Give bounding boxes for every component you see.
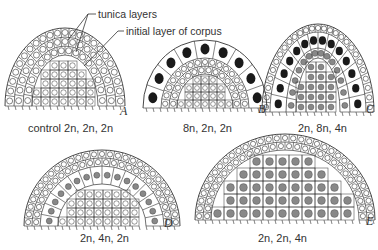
tunica-layers-label: tunica layers — [98, 8, 157, 20]
panel-e-caption: 2n, 2n, 4n — [258, 232, 307, 244]
panel-c-caption: 2n, 8n, 4n — [298, 122, 347, 134]
panel-a-letter: A — [120, 104, 127, 119]
panel-b-dome — [143, 40, 267, 112]
panel-d-dome — [24, 150, 180, 230]
panel-c-letter: C — [366, 102, 374, 117]
panel-a-caption: control 2n, 2n, 2n — [28, 122, 113, 134]
panel-d-letter: D — [164, 216, 173, 231]
panel-b-caption: 8n, 2n, 2n — [183, 122, 232, 134]
panel-d-caption: 2n, 4n, 2n — [80, 232, 129, 244]
panel-e-letter: E — [366, 214, 373, 229]
panel-c-dome — [262, 24, 374, 116]
initial-layer-label: initial layer of corpus — [126, 25, 222, 37]
panel-a-dome — [5, 28, 125, 110]
panel-e-dome — [195, 134, 375, 224]
panel-b-letter: B — [258, 102, 265, 117]
